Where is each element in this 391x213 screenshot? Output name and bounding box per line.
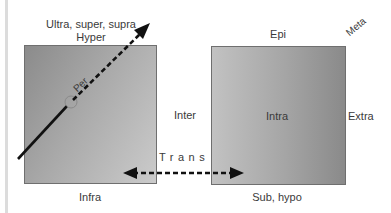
label-trans: Trans xyxy=(159,152,209,163)
per-arrow-solid xyxy=(18,106,67,159)
label-sub-hypo: Sub, hypo xyxy=(252,192,302,203)
trans-arrowhead-left-icon xyxy=(123,167,137,179)
label-epi: Epi xyxy=(270,29,286,40)
trans-arrowhead-right-icon xyxy=(230,167,244,179)
label-ultra-super-supra: Ultra, super, supra xyxy=(46,19,136,30)
label-infra: Infra xyxy=(79,192,101,203)
label-intra: Intra xyxy=(266,111,288,122)
label-extra: Extra xyxy=(348,111,374,122)
arrows-layer xyxy=(0,0,391,213)
label-hyper: Hyper xyxy=(76,32,105,43)
label-inter: Inter xyxy=(174,110,196,121)
